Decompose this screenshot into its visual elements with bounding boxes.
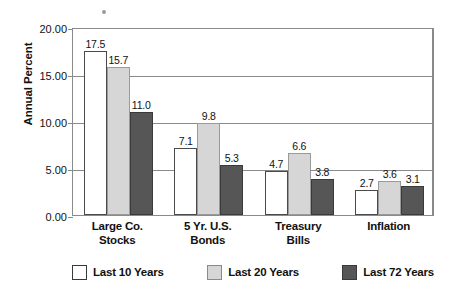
bar[interactable] <box>355 190 378 215</box>
bar-value-label: 9.8 <box>202 110 216 122</box>
bar-value-label: 11.0 <box>132 99 151 111</box>
legend-label: Last 72 Years <box>363 266 434 278</box>
legend-item[interactable]: Last 10 Years <box>72 265 164 280</box>
category-label-line1: Inflation <box>367 220 410 232</box>
bar[interactable] <box>197 123 220 215</box>
bar[interactable] <box>401 186 424 215</box>
y-tick-label: 20.00 <box>39 23 67 35</box>
y-tick-label: 0.00 <box>46 211 67 223</box>
legend-swatch <box>72 265 87 280</box>
x-axis-category-labels: Large Co.Stocks5 Yr. U.S.BondsTreasuryBi… <box>72 220 434 260</box>
category-label-line1: 5 Yr. U.S. <box>184 220 232 232</box>
bar[interactable] <box>288 153 311 215</box>
bar[interactable] <box>84 51 107 216</box>
category-label-line1: Treasury <box>275 220 321 232</box>
bar[interactable] <box>174 148 197 215</box>
bar[interactable] <box>220 165 243 215</box>
y-tick-mark <box>68 217 73 218</box>
category-label-line2: Stocks <box>72 234 163 248</box>
bar[interactable] <box>265 171 288 215</box>
x-axis-category-label: Inflation <box>344 220 435 234</box>
bar-group: 17.515.711.0 <box>84 29 153 215</box>
bar[interactable] <box>378 181 401 215</box>
category-label-line2: Bonds <box>163 234 254 248</box>
bar-group: 2.73.63.1 <box>355 29 424 215</box>
bar-group: 7.19.85.3 <box>174 29 243 215</box>
y-axis-title: Annual Percent <box>22 14 34 154</box>
bottom-bleed-text <box>0 288 453 296</box>
bar-value-label: 5.3 <box>225 152 239 164</box>
bar-value-label: 15.7 <box>108 54 128 66</box>
bar[interactable] <box>130 112 153 215</box>
legend-swatch <box>207 265 222 280</box>
y-tick-label: 10.00 <box>39 117 67 129</box>
bar-value-label: 3.1 <box>406 173 420 185</box>
bar-series-container: 17.515.711.07.19.85.34.76.63.82.73.63.1 <box>73 29 432 215</box>
speck-artifact <box>102 10 106 14</box>
x-axis-category-label: TreasuryBills <box>253 220 344 247</box>
bar-value-label: 3.8 <box>315 166 329 178</box>
bar-value-label: 17.5 <box>85 38 105 50</box>
legend-label: Last 10 Years <box>93 266 164 278</box>
y-tick-label: 15.00 <box>39 70 67 82</box>
legend-item[interactable]: Last 72 Years <box>342 265 434 280</box>
plot-area: 0.005.0010.0015.0020.00 17.515.711.07.19… <box>72 28 434 216</box>
x-axis-category-label: Large Co.Stocks <box>72 220 163 247</box>
bar[interactable] <box>107 67 130 215</box>
bar-chart-figure: Annual Percent 0.005.0010.0015.0020.00 1… <box>0 0 453 296</box>
chart-legend: Last 10 YearsLast 20 YearsLast 72 Years <box>72 262 434 282</box>
y-tick-label: 5.00 <box>46 164 67 176</box>
bar-group: 4.76.63.8 <box>265 29 334 215</box>
category-label-line1: Large Co. <box>92 220 143 232</box>
legend-label: Last 20 Years <box>228 266 299 278</box>
x-axis-category-label: 5 Yr. U.S.Bonds <box>163 220 254 247</box>
bar-value-label: 7.1 <box>179 135 193 147</box>
bar[interactable] <box>311 179 334 215</box>
bar-value-label: 4.7 <box>269 158 283 170</box>
bar-value-label: 3.6 <box>383 168 397 180</box>
category-label-line2: Bills <box>253 234 344 248</box>
legend-item[interactable]: Last 20 Years <box>207 265 299 280</box>
bar-value-label: 6.6 <box>292 140 306 152</box>
bar-value-label: 2.7 <box>360 177 374 189</box>
legend-swatch <box>342 265 357 280</box>
